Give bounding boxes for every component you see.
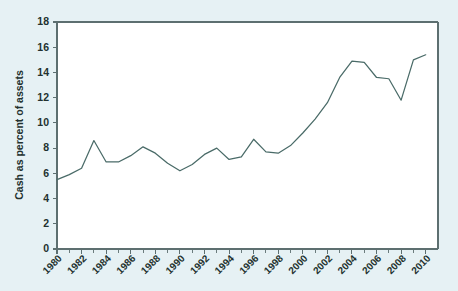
y-tick-label-0: 0 [43, 242, 49, 254]
y-tick-label-12: 12 [37, 91, 49, 103]
plot-area-background [57, 22, 438, 249]
y-tick-label-2: 2 [43, 217, 49, 229]
y-tick-label-8: 8 [43, 141, 49, 153]
y-tick-label-4: 4 [43, 192, 49, 204]
y-axis-title: Cash as percent of assets [13, 70, 25, 200]
cash-as-percent-of-assets-line-chart: 024681012141618 198019821984198619881990… [0, 0, 458, 291]
y-tick-label-16: 16 [37, 41, 49, 53]
y-tick-label-10: 10 [37, 116, 49, 128]
y-tick-label-18: 18 [37, 15, 49, 27]
y-tick-label-14: 14 [37, 66, 49, 78]
y-tick-label-6: 6 [43, 167, 49, 179]
